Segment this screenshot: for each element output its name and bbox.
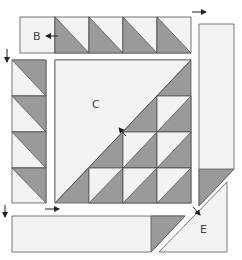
left-strip xyxy=(12,60,46,203)
label-b: B xyxy=(33,30,41,43)
piece-c xyxy=(55,60,191,203)
label-c: C xyxy=(92,98,100,111)
quilt-diagram: B xyxy=(0,0,242,260)
top-hst-units xyxy=(55,17,191,53)
label-e: E xyxy=(200,223,207,236)
bottom-strip xyxy=(12,216,185,252)
piece-b-row xyxy=(20,17,191,53)
right-strip xyxy=(199,24,234,206)
